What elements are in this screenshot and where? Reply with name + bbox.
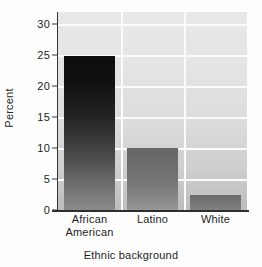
plot-area xyxy=(58,12,247,210)
bar-white xyxy=(190,195,242,210)
y-tick-label: 0 xyxy=(44,204,50,216)
y-axis-tick-labels: 051015202530 xyxy=(18,0,52,215)
y-tick-mark xyxy=(52,24,57,25)
x-category-label: Latino xyxy=(137,213,168,226)
y-tick-label: 10 xyxy=(37,142,50,154)
x-category-label: White xyxy=(201,213,230,226)
y-tick-mark xyxy=(52,210,57,211)
y-tick-mark xyxy=(52,55,57,56)
y-axis-title-text: Percent xyxy=(3,88,15,127)
y-tick-mark xyxy=(52,179,57,180)
vertical-gridline xyxy=(184,12,186,210)
vertical-gridline xyxy=(121,12,123,210)
y-tick-mark xyxy=(52,148,57,149)
horizontal-gridline xyxy=(58,24,247,26)
y-tick-label: 15 xyxy=(37,111,50,123)
bar-african-american xyxy=(64,56,116,210)
x-axis-category-labels: AfricanAmericanLatinoWhite xyxy=(58,213,247,247)
y-tick-label: 30 xyxy=(37,18,50,30)
y-tick-mark xyxy=(52,86,57,87)
bar-chart-figure: Percent 051015202530 AfricanAmericanLati… xyxy=(0,0,262,267)
x-category-label-line1: African xyxy=(72,213,108,225)
x-category-label-line1: White xyxy=(201,213,230,225)
bar-latino xyxy=(127,148,179,210)
x-category-label-line2: American xyxy=(65,226,113,239)
y-tick-mark xyxy=(52,117,57,118)
x-category-label-line1: Latino xyxy=(137,213,168,225)
y-axis-title: Percent xyxy=(0,0,18,215)
x-axis-line xyxy=(52,210,249,212)
y-tick-label: 25 xyxy=(37,49,50,61)
x-axis-title: Ethnic background xyxy=(0,249,262,261)
y-tick-label: 5 xyxy=(44,173,50,185)
y-tick-label: 20 xyxy=(37,80,50,92)
x-category-label: AfricanAmerican xyxy=(65,213,113,239)
